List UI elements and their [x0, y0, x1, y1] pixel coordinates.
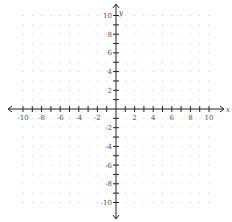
grid-dot [97, 43, 98, 44]
grid-dot [41, 99, 42, 100]
grid-dot [50, 34, 51, 35]
grid-dot [171, 90, 172, 91]
grid-dot [78, 52, 79, 53]
x-tick-label: 4 [151, 114, 156, 122]
grid-dot [60, 146, 61, 147]
grid-dot [199, 146, 200, 147]
grid-dot [190, 43, 191, 44]
grid-dot [171, 71, 172, 72]
grid-dot [23, 81, 24, 82]
grid-dot [60, 90, 61, 91]
grid-dot [181, 127, 182, 128]
x-tick-label: -8 [38, 114, 45, 122]
grid-dot [50, 146, 51, 147]
grid-dot [60, 183, 61, 184]
grid-dot [69, 81, 70, 82]
grid-dot [69, 62, 70, 63]
grid-dot [88, 15, 89, 16]
grid-dot [125, 34, 126, 35]
grid-dot [125, 137, 126, 138]
y-tick-label: 4 [108, 68, 113, 76]
grid-dot [50, 43, 51, 44]
coordinate-plane: -10-8-6-4-2246810 108642-2-4-6-8-10 x y [0, 0, 232, 222]
grid-dot [50, 52, 51, 53]
grid-dot [69, 34, 70, 35]
grid-dot [134, 174, 135, 175]
grid-dot [23, 137, 24, 138]
grid-dot [153, 62, 154, 63]
grid-dot [32, 90, 33, 91]
grid-dot [50, 155, 51, 156]
x-tick-label: 6 [170, 114, 175, 122]
grid-dot [88, 155, 89, 156]
grid-dot [162, 62, 163, 63]
grid-dot [162, 99, 163, 100]
grid-dot [125, 24, 126, 25]
grid-dot [199, 62, 200, 63]
grid-dot [143, 81, 144, 82]
grid-dot [69, 118, 70, 119]
grid-dot [153, 24, 154, 25]
grid-dot [143, 99, 144, 100]
grid-dot [32, 81, 33, 82]
grid-dot [190, 34, 191, 35]
grid-dot [78, 81, 79, 82]
grid-dot [78, 193, 79, 194]
grid-dot [23, 99, 24, 100]
grid-dot [199, 15, 200, 16]
grid-dot [171, 183, 172, 184]
grid-dot [97, 34, 98, 35]
grid-dot [143, 71, 144, 72]
grid-dot [181, 62, 182, 63]
grid-dot [171, 43, 172, 44]
grid-dot [41, 127, 42, 128]
grid-dot [32, 118, 33, 119]
grid-dot [125, 15, 126, 16]
grid-dot [209, 137, 210, 138]
grid-dot [50, 15, 51, 16]
grid-dot [153, 127, 154, 128]
grid-dot [88, 174, 89, 175]
grid-dot [143, 165, 144, 166]
grid-dot [88, 81, 89, 82]
grid-dot [199, 155, 200, 156]
y-axis-label: y [118, 9, 124, 17]
grid-dot [78, 99, 79, 100]
grid-dot [60, 202, 61, 203]
grid-dot [69, 183, 70, 184]
grid-dot [69, 165, 70, 166]
grid-dot [60, 165, 61, 166]
grid-dot [32, 202, 33, 203]
grid-dot [88, 43, 89, 44]
grid-dot [106, 24, 107, 25]
grid-dot [162, 43, 163, 44]
grid-dot [23, 146, 24, 147]
grid-dot [106, 118, 107, 119]
grid-dot [41, 155, 42, 156]
grid-dot [88, 202, 89, 203]
grid-dot [60, 62, 61, 63]
grid-dot [97, 99, 98, 100]
grid-dot [78, 71, 79, 72]
grid-dot [171, 202, 172, 203]
grid-dot [125, 155, 126, 156]
grid-dot [23, 43, 24, 44]
grid-dot [50, 174, 51, 175]
grid-dot [41, 52, 42, 53]
grid-dot [171, 127, 172, 128]
grid-dot [199, 183, 200, 184]
grid-dot [162, 155, 163, 156]
grid-dot [190, 165, 191, 166]
grid-dot [97, 24, 98, 25]
grid-dot [50, 137, 51, 138]
grid-dot [143, 137, 144, 138]
grid-dot [60, 24, 61, 25]
grid-dot [41, 71, 42, 72]
grid-dot [32, 34, 33, 35]
grid-dot [88, 137, 89, 138]
grid-dot [209, 24, 210, 25]
grid-dot [153, 174, 154, 175]
grid-dot [78, 127, 79, 128]
grid-dot [143, 90, 144, 91]
grid-dot [97, 62, 98, 63]
